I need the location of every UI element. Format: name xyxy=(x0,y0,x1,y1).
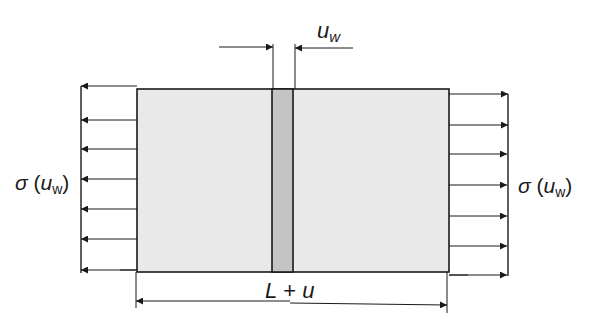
left-stress-label: σ (uw) xyxy=(15,171,69,197)
diagram-canvas: uw σ (uw) σ (uw) L + u xyxy=(0,0,595,332)
right-stress-label: σ (uw) xyxy=(518,174,572,200)
crack-band xyxy=(272,89,293,272)
right-stress-arrows xyxy=(449,94,508,276)
crack-opening-dimension xyxy=(219,47,353,48)
crack-opening-label: uw xyxy=(317,18,341,45)
length-label: L + u xyxy=(265,278,315,303)
left-stress-arrows xyxy=(81,86,137,273)
